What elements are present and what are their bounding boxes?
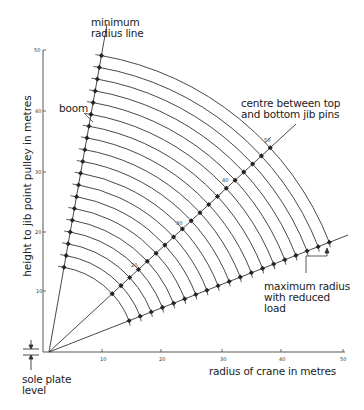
- y-axis-label: height to jib point pulley in metres: [21, 86, 33, 286]
- x-tick-label: 30: [220, 356, 226, 362]
- radius-arc: [68, 244, 151, 312]
- x-tick-label: 50: [340, 356, 346, 362]
- radius-arc: [87, 138, 252, 273]
- radius-arc: [66, 256, 140, 317]
- radius-arc: [74, 209, 184, 299]
- minimum-radius-label: minimum radius line: [91, 17, 144, 39]
- radius-arc: [101, 56, 329, 243]
- label-line: and bottom jib pins: [241, 109, 340, 120]
- label-line: level: [22, 385, 71, 396]
- y-tick-label: 10: [36, 288, 42, 294]
- radius-arc: [64, 267, 129, 320]
- y-tick-label: 30: [35, 169, 41, 175]
- pin-line-mark: 30: [176, 220, 182, 226]
- x-tick-label: 20: [159, 356, 165, 362]
- max-radius-pointer: [306, 248, 329, 273]
- pin-line-mark: 40: [222, 177, 228, 183]
- sole-plate-label: sole plate level: [22, 374, 71, 396]
- label-line: radius line: [91, 28, 144, 39]
- radius-arc: [70, 232, 162, 308]
- x-axis-label: radius of crane in metres: [209, 366, 336, 377]
- boom-line: [49, 24, 107, 352]
- radius-arc: [77, 197, 196, 295]
- y-tick-label: 50: [34, 47, 40, 53]
- pin-line-mark: 50: [264, 137, 270, 143]
- pin-line-mark: 20: [131, 262, 137, 268]
- crane-radius-diagram: [0, 0, 364, 410]
- centre-pins-label: centre between top and bottom jib pins: [241, 98, 340, 120]
- y-tick-label: 20: [35, 229, 41, 235]
- y-tick-label: 40: [35, 108, 41, 114]
- radius-arc: [99, 67, 318, 246]
- x-tick-label: 40: [279, 356, 285, 362]
- max-radius-label: maximum radius with reduced load: [264, 281, 350, 314]
- label-line: load: [264, 303, 350, 314]
- x-tick-label: 10: [100, 356, 106, 362]
- sole-plate-marker-icon: [23, 340, 39, 370]
- boom-label: boom: [59, 103, 88, 114]
